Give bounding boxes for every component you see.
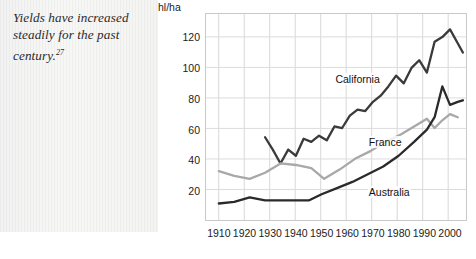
line-chart: hl/ha 1910192019301940195019601970198019…	[158, 0, 476, 259]
x-axis-tick-label: 1950	[310, 227, 333, 239]
x-axis-tick-label: 1990	[413, 227, 436, 239]
y-axis-tick-label: 80	[188, 93, 200, 105]
series-label-australia: Australia	[368, 186, 411, 198]
x-axis-tick-label: 1930	[259, 227, 282, 239]
series-line-france	[219, 114, 458, 179]
series-label-france: France	[368, 136, 403, 148]
x-axis-tick-label: 1970	[361, 227, 384, 239]
x-axis-tick-label: 1940	[284, 227, 307, 239]
caption-text: Yields have increased steadily for the p…	[13, 9, 148, 64]
caption-body: Yields have increased steadily for the p…	[13, 10, 129, 63]
y-axis-tick-label: 40	[188, 154, 200, 166]
plot-area: 1910192019301940195019601970198019902000…	[205, 13, 467, 221]
series-line-australia	[219, 86, 463, 203]
caption-footnote-marker: 27	[56, 48, 64, 57]
x-axis-tick-label: 2000	[438, 227, 461, 239]
series-lines	[206, 14, 468, 222]
y-axis-title: hl/ha	[158, 1, 181, 13]
y-axis-tick-label: 20	[188, 185, 200, 197]
x-axis-tick-label: 1960	[336, 227, 359, 239]
figure-root: Yields have increased steadily for the p…	[0, 0, 476, 259]
caption-panel: Yields have increased steadily for the p…	[0, 0, 158, 232]
series-line-california	[265, 29, 463, 163]
x-axis-tick-label: 1980	[387, 227, 410, 239]
y-axis-tick-label: 120	[182, 31, 200, 43]
y-axis-tick-label: 100	[182, 62, 200, 74]
series-label-california: California	[334, 73, 380, 85]
x-axis-tick-label: 1920	[233, 227, 256, 239]
y-axis-tick-label: 60	[188, 124, 200, 136]
x-axis-tick-label: 1910	[207, 227, 230, 239]
